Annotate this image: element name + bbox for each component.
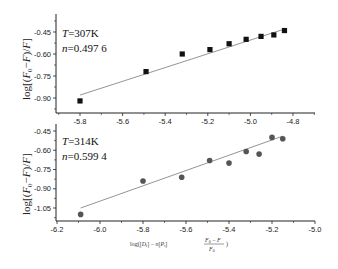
data-point <box>227 41 232 46</box>
svg-text:log([Dt] − n[Pt]: log([Dt] − n[Pt] <box>130 241 167 248</box>
data-point <box>78 212 84 218</box>
data-point <box>140 178 146 184</box>
data-point <box>244 37 249 42</box>
bottom-x-tick-label: -5.0 <box>309 225 322 234</box>
top-y-tick-label: -0.75 <box>34 72 51 81</box>
data-point <box>256 151 262 157</box>
data-point <box>280 136 286 142</box>
top-n-annotation: n=0.497 6 <box>62 42 107 54</box>
bottom-x-tick-label: -5.8 <box>137 225 150 234</box>
top-x-tick-label: -5.4 <box>159 117 172 126</box>
svg-text:F0 − F: F0 − F <box>204 237 221 244</box>
bottom-y-tick-label: -0.45 <box>34 127 51 136</box>
data-point <box>179 174 185 180</box>
top-x-tick-label: -5.6 <box>116 117 129 126</box>
data-point <box>77 98 82 103</box>
svg-text:F0: F0 <box>208 246 215 253</box>
data-point <box>271 32 276 37</box>
top-x-tick-label: -4.8 <box>287 117 300 126</box>
bottom-fit-line <box>81 136 283 208</box>
data-point <box>226 160 232 166</box>
data-point <box>207 158 213 164</box>
top-fit-line <box>80 29 284 95</box>
chart-canvas: -5.8-5.6-5.4-5.2-5.0-4.8-0.45-0.60-0.75-… <box>0 0 338 269</box>
data-point <box>180 51 185 56</box>
bottom-n-annotation: n=0.599 4 <box>62 150 107 162</box>
data-point <box>143 69 148 74</box>
bottom-y-tick-label: -1.05 <box>34 204 51 213</box>
top-y-tick-label: -0.45 <box>34 28 51 37</box>
top-temperature-annotation: T=307K <box>62 27 99 39</box>
top-y-axis-label: log[(F0−F)/F] <box>20 38 34 100</box>
top-y-tick-label: -0.90 <box>34 94 51 103</box>
top-y-tick-label: -0.60 <box>34 50 51 59</box>
data-point <box>269 135 275 141</box>
top-x-tick-label: -5.2 <box>201 117 214 126</box>
top-x-tick-label: -5.8 <box>74 117 87 126</box>
bottom-temperature-annotation: T=314K <box>62 135 99 147</box>
top-x-tick-label: -5.0 <box>244 117 257 126</box>
bottom-x-tick-label: -5.4 <box>223 225 236 234</box>
bottom-y-tick-label: -0.60 <box>34 146 51 155</box>
bottom-y-tick-label: -0.75 <box>34 165 51 174</box>
bottom-y-tick-label: -0.90 <box>34 184 51 193</box>
bottom-x-axis-label: log([Dt] − n[Pt] F0 − F F0 ) <box>130 237 228 253</box>
bottom-x-tick-label: -6.2 <box>51 225 64 234</box>
data-point <box>258 34 263 39</box>
bottom-x-tick-label: -6.0 <box>94 225 107 234</box>
bottom-y-axis-label: log[(F0−F)/F] <box>20 153 34 215</box>
svg-text:): ) <box>226 241 228 248</box>
bottom-x-tick-label: -5.2 <box>266 225 279 234</box>
data-point <box>207 47 212 52</box>
data-point <box>282 28 287 33</box>
data-point <box>243 149 249 155</box>
bottom-x-tick-label: -5.6 <box>180 225 193 234</box>
